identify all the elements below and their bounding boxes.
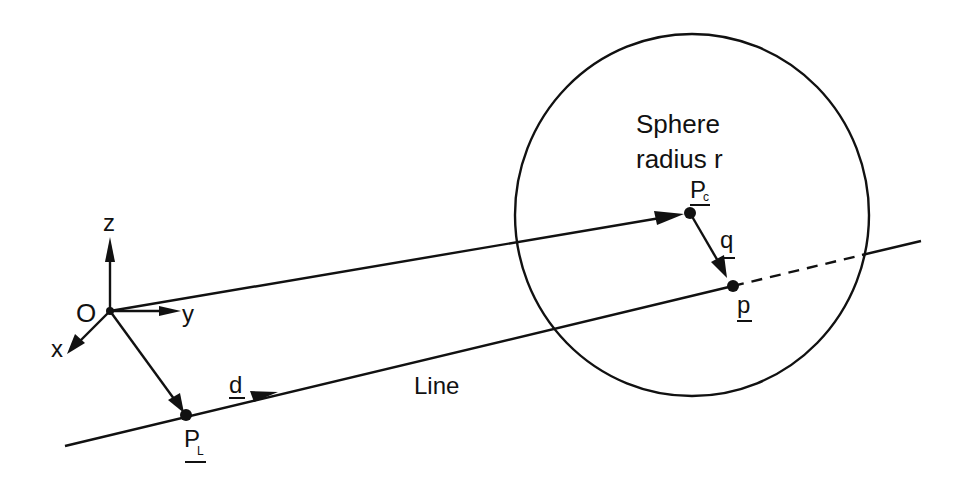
vector-o-pc-shaft	[110, 216, 672, 311]
vector-o-pl-shaft	[110, 311, 177, 403]
line-sphere-diagram: O z y x Sphere radius r P c q p d Line	[0, 0, 968, 491]
pc-label-subscript: c	[703, 190, 709, 204]
line-dashed-segment	[733, 255, 862, 286]
line	[65, 241, 921, 446]
q-label: q	[720, 226, 735, 258]
origin-label: O	[76, 298, 96, 328]
pc-label: P c	[690, 176, 710, 205]
line-exit-segment	[862, 241, 921, 255]
x-axis-label: x	[51, 335, 63, 362]
z-axis-label: z	[103, 209, 115, 236]
line-label: Line	[414, 372, 459, 399]
point-pc	[684, 207, 696, 219]
sphere-label: Sphere	[636, 109, 720, 139]
origin-point	[106, 307, 114, 315]
x-arrowhead-icon	[67, 334, 85, 354]
z-arrowhead-icon	[105, 237, 115, 262]
coordinate-axes	[67, 237, 181, 354]
arrowhead-icon	[654, 211, 684, 225]
p-label-text: p	[737, 291, 750, 318]
q-label-text: q	[720, 226, 733, 253]
sphere-radius-label: radius r	[636, 144, 723, 174]
vector-o-to-pl	[110, 311, 184, 413]
pl-label: P L	[184, 425, 206, 462]
vector-o-to-pc	[110, 211, 684, 311]
arrowhead-icon	[168, 393, 184, 413]
d-label: d	[229, 371, 245, 398]
d-label-text: d	[229, 371, 242, 398]
pl-label-subscript: L	[197, 444, 204, 458]
point-pl	[180, 409, 192, 421]
p-label: p	[737, 291, 752, 321]
y-axis-label: y	[182, 300, 194, 327]
y-arrowhead-icon	[159, 306, 181, 316]
